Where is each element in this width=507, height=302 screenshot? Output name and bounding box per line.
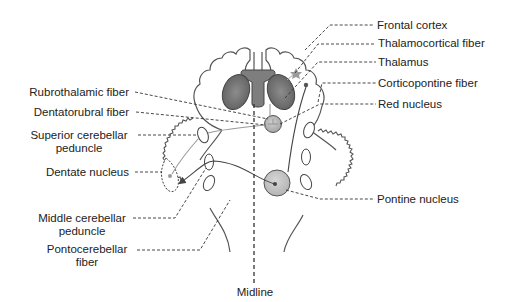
label-corticopontine-fiber: Corticopontine fiber [378, 77, 478, 90]
label-midline: Midline [230, 286, 280, 299]
label-thalamus: Thalamus [378, 56, 429, 69]
label-rubrothalamic-fiber: Rubrothalamic fiber [29, 86, 129, 99]
label-pontine-nucleus: Pontine nucleus [377, 193, 459, 206]
label-middle-cerebellar-peduncle: Middle cerebellar peduncle [34, 212, 130, 238]
label-dentatorubral-fiber: Dentatorubral fiber [34, 106, 129, 119]
label-frontal-cortex: Frontal cortex [377, 19, 447, 32]
pathway-diagram: Frontal cortex Thalamocortical fiber Tha… [0, 0, 507, 302]
label-line: Superior cerebellar [28, 129, 130, 142]
label-red-nucleus: Red nucleus [378, 98, 442, 111]
label-pontocerebellar-fiber: Pontocerebellar fiber [42, 243, 132, 269]
label-thalamocortical-fiber: Thalamocortical fiber [378, 37, 485, 50]
label-line: Pontocerebellar [42, 243, 132, 256]
label-line: fiber [42, 256, 132, 269]
label-line: peduncle [28, 142, 130, 155]
label-line: Middle cerebellar [34, 212, 130, 225]
label-superior-cerebellar-peduncle: Superior cerebellar peduncle [28, 129, 130, 155]
label-dentate-nucleus: Dentate nucleus [46, 166, 129, 179]
label-line: peduncle [34, 225, 130, 238]
